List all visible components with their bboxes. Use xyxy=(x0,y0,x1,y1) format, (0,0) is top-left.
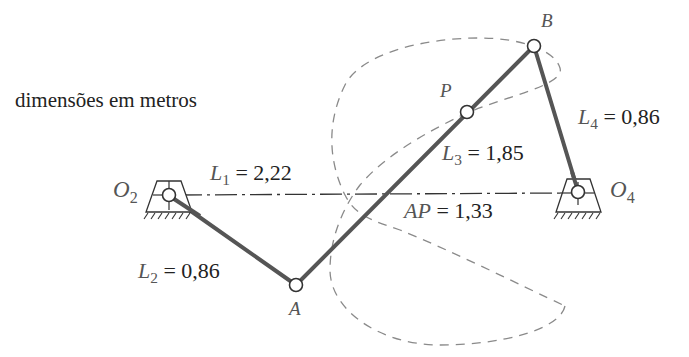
dim-l4-value: = 0,86 xyxy=(598,104,660,129)
ground-line-l1 xyxy=(180,193,566,195)
dim-ap-sym: AP xyxy=(404,198,431,223)
label-o2-name: O xyxy=(113,177,130,202)
label-p: P xyxy=(440,80,452,102)
label-o4-name: O xyxy=(610,177,627,202)
joint-o4 xyxy=(572,186,585,199)
dim-l3-sub: 3 xyxy=(454,151,462,168)
link-l4 xyxy=(534,46,578,191)
label-o2-sub: 2 xyxy=(130,189,138,206)
dim-l1-sub: 1 xyxy=(222,171,230,188)
joint-a xyxy=(290,279,303,292)
dim-l2-sub: 2 xyxy=(150,269,158,286)
dim-l3-value: = 1,85 xyxy=(462,140,524,165)
joint-o2 xyxy=(163,189,176,202)
four-bar-linkage-diagram xyxy=(0,0,689,357)
label-b: B xyxy=(541,10,553,32)
dim-l2-sym: L xyxy=(138,258,150,283)
dim-l1: L1 = 2,22 xyxy=(210,160,292,189)
label-a: A xyxy=(289,298,301,320)
dim-l1-sym: L xyxy=(210,160,222,185)
dim-l3: L3 = 1,85 xyxy=(442,140,524,169)
dim-ap: AP = 1,33 xyxy=(404,198,493,224)
dim-l2-value: = 0,86 xyxy=(158,258,220,283)
label-o4-sub: 4 xyxy=(627,189,635,206)
dim-l4: L4 = 0,86 xyxy=(578,104,660,133)
label-o2: O2 xyxy=(113,177,138,207)
dim-ap-value: = 1,33 xyxy=(431,198,493,223)
joint-p xyxy=(461,106,474,119)
dim-l2: L2 = 0,86 xyxy=(138,258,220,287)
dim-l3-sym: L xyxy=(442,140,454,165)
dim-l4-sym: L xyxy=(578,104,590,129)
joint-b xyxy=(528,40,541,53)
dim-l4-sub: 4 xyxy=(590,115,598,132)
dim-l1-value: = 2,22 xyxy=(230,160,292,185)
label-o4: O4 xyxy=(610,177,635,207)
units-caption: dimensões em metros xyxy=(15,88,197,113)
